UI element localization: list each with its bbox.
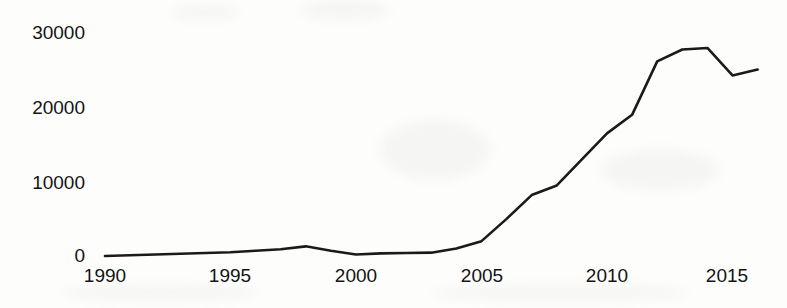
- line-chart: 30000 20000 10000 0 1990 1995 2000 2005 …: [0, 0, 787, 308]
- data-line-group: [105, 48, 758, 256]
- data-line-series-1: [105, 48, 758, 256]
- plot-area: [0, 0, 787, 308]
